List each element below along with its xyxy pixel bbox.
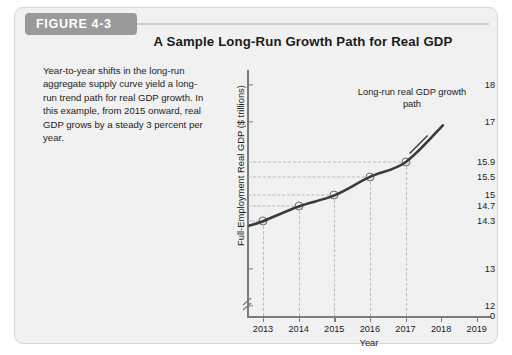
- data-point-marker: [294, 202, 303, 211]
- y-tick-mark: [248, 84, 253, 85]
- data-point-marker: [401, 158, 410, 167]
- data-point-marker: [330, 191, 339, 200]
- vertical-gridline: [334, 195, 335, 316]
- vertical-gridline: [299, 206, 300, 316]
- x-tick-mark: [370, 317, 371, 322]
- y-tick-label: 14.3: [457, 216, 495, 226]
- x-tick-mark: [406, 317, 407, 322]
- x-tick-mark: [334, 317, 335, 322]
- x-tick-label: 2014: [279, 324, 319, 334]
- y-tick-mark: [248, 268, 253, 269]
- x-tick-label: 2016: [350, 324, 390, 334]
- x-tick-mark: [477, 317, 478, 322]
- y-tick-mark: [248, 305, 253, 306]
- y-tick-label: 15.9: [457, 157, 495, 167]
- vertical-gridline: [370, 177, 371, 316]
- y-axis-title: Full-Employment Real GDP ($ trillions): [235, 66, 246, 266]
- y-tick-label: 14.7: [457, 201, 495, 211]
- y-tick-mark: [248, 121, 253, 122]
- tab-divider-rule: [137, 23, 489, 25]
- data-point-marker: [259, 217, 268, 226]
- horizontal-gridline: [248, 176, 370, 177]
- curve-annotation-label: Long-run real GDP growth path: [357, 86, 467, 110]
- vertical-gridline: [263, 221, 264, 316]
- horizontal-gridline: [248, 195, 334, 196]
- x-tick-label: 2019: [457, 324, 497, 334]
- y-axis-line: [247, 70, 249, 317]
- vertical-gridline: [406, 162, 407, 316]
- y-tick-label: 12: [457, 301, 495, 311]
- page-title: A Sample Long-Run Growth Path for Real G…: [115, 34, 491, 49]
- x-tick-mark: [299, 317, 300, 322]
- x-tick-label: 2015: [314, 324, 354, 334]
- x-tick-mark: [263, 317, 264, 322]
- x-tick-mark: [441, 317, 442, 322]
- chart-plot-area: Full-Employment Real GDP ($ trillions) 0…: [207, 58, 495, 343]
- data-point-marker: [365, 172, 374, 181]
- x-tick-label: 2018: [421, 324, 461, 334]
- horizontal-gridline: [248, 162, 406, 163]
- x-tick-label: 2013: [243, 324, 283, 334]
- figure-caption: Year-to-year shifts in the long-run aggr…: [43, 64, 206, 144]
- y-tick-label: 15.5: [457, 172, 495, 182]
- x-tick-label: 2017: [386, 324, 426, 334]
- y-tick-label: 15: [457, 190, 495, 200]
- y-tick-label: 17: [457, 117, 495, 127]
- figure-panel: FIGURE 4-3 A Sample Long-Run Growth Path…: [14, 7, 498, 344]
- horizontal-gridline: [248, 206, 299, 207]
- x-axis-title: Year: [247, 337, 491, 348]
- figure-number-tab: FIGURE 4-3: [25, 13, 137, 35]
- y-tick-label: 13: [457, 264, 495, 274]
- annotation-leader-line: [410, 136, 428, 154]
